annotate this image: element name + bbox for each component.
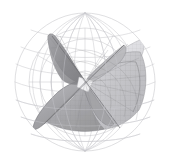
surface-plot-figure: Grayscale 3D plot of a self-intersecting… xyxy=(0,0,171,163)
surface-plot-canvas xyxy=(0,0,171,163)
